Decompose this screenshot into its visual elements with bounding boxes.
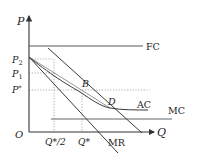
x-axis-label: Q — [157, 126, 166, 139]
q-half-label: Q*/2 — [45, 137, 66, 147]
mc-label: MC — [168, 105, 185, 116]
cost-pricing-diagram: P Q O P2 P1 P* Q*/2 Q* FC AC MC MR B D — [0, 0, 200, 167]
p1-label: P1 — [11, 68, 23, 81]
y-axis-label: P — [16, 15, 25, 28]
origin-label: O — [15, 129, 23, 140]
point-d-label: D — [107, 96, 116, 107]
ac-label: AC — [136, 99, 151, 110]
p2-label: P2 — [11, 54, 23, 67]
demand-line — [48, 48, 142, 133]
pstar-label: P* — [11, 84, 21, 95]
fc-label: FC — [146, 41, 160, 52]
point-b-label: B — [81, 78, 89, 89]
mr-label: MR — [108, 137, 126, 148]
qstar-label: Q* — [78, 137, 90, 147]
